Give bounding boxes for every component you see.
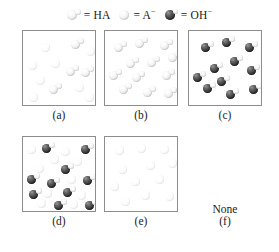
oh-hydrogen-lobe [254,64,260,70]
oh-hydrogen-lobe [68,163,74,169]
ha-small-lobe [56,83,62,89]
a-anion-sphere [37,199,46,208]
oh-hydrogen-lobe [36,188,42,194]
a-anion-sphere [77,191,86,200]
oh-anion-icon [165,9,178,20]
a-anion-sphere [51,59,60,68]
oh-hydrogen-lobe [92,199,96,205]
legend: = HA = A− = OH− [0,4,279,26]
panel-d-label: (d) [22,216,96,228]
legend-charge-oh: − [208,7,213,16]
ha-molecule-icon [67,9,81,20]
a-anion-sphere [73,157,82,166]
a-anion-sphere [29,93,38,102]
a-anion-sphere [69,200,78,209]
a-anion-sphere [61,147,70,156]
panel-c[interactable] [188,30,262,106]
legend-species-ha: HA [93,9,110,21]
a-anion-sphere [110,182,119,191]
a-anion-sphere [165,192,174,201]
a-anion-sphere [75,83,84,92]
a-anion-sphere [36,76,45,85]
panel-d[interactable] [22,136,96,212]
panel-a[interactable] [22,30,96,106]
oh-hydrogen-lobe [173,9,178,14]
ha-small-lobe [169,69,175,75]
a-anion-sphere [155,175,164,184]
a-anion-sphere [131,177,140,186]
a-anion-sphere [43,189,52,198]
a-anion-sphere [119,10,129,20]
ha-small-lobe [116,69,122,75]
a-anion-sphere [160,145,169,154]
ha-small-lobe [75,9,81,15]
legend-equals-oh: = [181,9,188,21]
oh-hydrogen-lobe [54,177,60,183]
panel-c-label: (c) [188,110,262,122]
ha-small-lobe [126,83,132,89]
panel-e-label: (e) [104,216,178,228]
a-anion-sphere [50,155,59,164]
a-anion-sphere [27,145,36,154]
oh-hydrogen-lobe [210,82,216,88]
oh-hydrogen-lobe [208,41,214,47]
oh-hydrogen-lobe [229,36,235,42]
ha-small-lobe [121,41,127,47]
ha-small-lobe [150,86,156,92]
legend-label-ha: = HA [84,8,111,21]
oh-hydrogen-lobe [217,62,223,68]
legend-species-oh: OH [191,9,208,21]
ha-small-lobe [133,57,139,63]
panel-a-label: (a) [22,110,96,122]
panel-f-none-text: None [188,204,262,216]
a-anion-sphere [146,161,155,170]
oh-hydrogen-lobe [90,174,96,180]
legend-species-a: A [143,9,152,21]
a-anion-sphere [85,93,94,102]
panel-e[interactable] [104,136,178,212]
legend-label-a: = A− [133,8,155,21]
oh-hydrogen-lobe [200,71,206,77]
legend-equals-a: = [133,9,140,21]
oh-hydrogen-lobe [233,88,239,94]
ha-small-lobe [154,56,160,62]
oh-hydrogen-lobe [237,55,243,61]
a-anion-sphere [115,146,124,155]
a-anion-icon [119,9,130,20]
legend-entry-oh-anion: = OH− [165,8,213,21]
legend-equals-ha: = [84,9,91,21]
legend-label-oh: = OH− [181,8,213,21]
a-anion-sphere [41,43,50,52]
panel-b-label: (b) [104,110,178,122]
oh-hydrogen-lobe [252,41,258,47]
oh-hydrogen-lobe [34,173,40,179]
a-anion-sphere [118,165,127,174]
a-anion-sphere [35,164,44,173]
a-anion-sphere [137,144,146,153]
a-anion-sphere [168,159,177,168]
ha-small-lobe [88,66,94,72]
ha-small-lobe [175,51,178,57]
ha-small-lobe [73,65,79,71]
ha-small-lobe [171,87,177,93]
ha-small-lobe [142,37,148,43]
oh-hydrogen-lobe [256,83,262,89]
oh-hydrogen-lobe [88,143,94,149]
oh-hydrogen-lobe [224,75,230,81]
panel-b[interactable] [104,30,178,106]
a-anion-sphere [67,175,76,184]
a-anion-sphere [141,191,150,200]
oh-hydrogen-lobe [70,186,76,192]
legend-entry-ha: = HA [67,8,111,21]
ha-small-lobe [78,38,84,44]
a-anion-sphere [86,47,95,56]
a-anion-sphere [28,61,37,70]
ha-small-lobe [167,39,173,45]
a-anion-sphere [121,197,130,206]
legend-charge-a: − [151,7,156,16]
oh-hydrogen-lobe [49,142,55,148]
legend-entry-a-anion: = A− [119,8,155,21]
panel-f-label: (f) [188,216,262,228]
ha-small-lobe [139,71,145,77]
oh-hydrogen-lobe [61,199,67,205]
